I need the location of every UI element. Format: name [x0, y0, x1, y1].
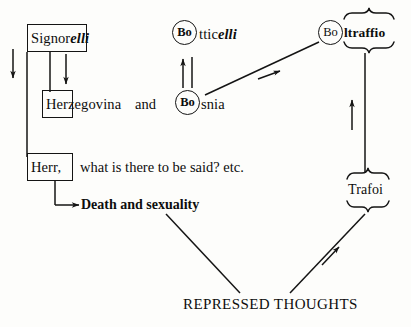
botticelli-tail: tticelli: [199, 27, 237, 42]
botticelli-circled-part: Bo: [177, 26, 192, 39]
repressed-death-line: [166, 214, 240, 293]
herzegovina-tail-part: zegovina: [68, 96, 121, 112]
boltraffio-circled-part: Bo: [323, 26, 338, 39]
signorelli-tail-part: elli: [70, 30, 89, 46]
signorelli-label: Signorelli: [31, 31, 89, 46]
botticelli-tail-italic: elli: [218, 26, 237, 42]
conjunction-and: and: [135, 97, 156, 112]
repressed-trafoi-line: [290, 214, 365, 293]
arrow-up-right-icon-repressed-trafoi: [322, 247, 339, 265]
bosnia-circled-part: Bo: [180, 96, 195, 109]
botticelli-tail-roman: ttic: [199, 26, 218, 42]
boltraffio-circle: Bo: [318, 20, 343, 45]
bosnia-boltraffio-line: [205, 42, 319, 95]
repressed-thoughts-label: REPRESSED THOUGHTS: [183, 297, 358, 312]
death-and-sexuality-label: Death and sexuality: [81, 198, 199, 212]
bosnia-circle: Bo: [175, 90, 200, 115]
trafoi-braced-part: Trafoi: [348, 182, 383, 197]
curly-brace-top-icon-trafoi: [347, 168, 389, 179]
botticelli-circle: Bo: [172, 20, 197, 45]
herr-rest-text: what is there to be said? etc.: [80, 160, 244, 175]
curly-brace-bottom-icon-boltraffio: [344, 42, 394, 53]
arrow-up-right-icon-bosnia-boltraffio: [258, 71, 280, 79]
herr-label: Herr,: [31, 160, 61, 175]
signorelli-boxed-part: Signor: [31, 30, 70, 46]
herr-boxed-part: Herr,: [31, 159, 61, 175]
herzegovina-boxed-part: Her: [46, 96, 68, 112]
curly-brace-bottom-icon-trafoi: [347, 201, 389, 212]
curly-brace-top-icon-boltraffio: [344, 8, 394, 19]
boltraffio-braced-part: ltraffio: [344, 25, 385, 40]
trafoi-braced-label: Trafoi: [348, 183, 383, 197]
bosnia-tail: snia: [201, 97, 225, 112]
boltraffio-braced-label: ltraffio: [344, 26, 385, 40]
herzegovina-label: Herzegovina: [46, 97, 121, 112]
bosnia-tail-part: snia: [201, 96, 225, 112]
diagram-canvas: Signorelli Herzegovina and Herr, what is…: [0, 0, 411, 327]
